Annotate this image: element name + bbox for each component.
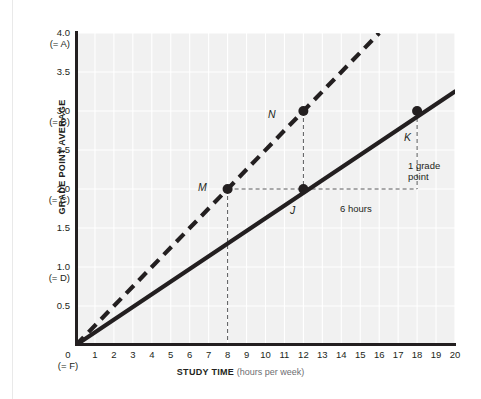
x-tick-6: 6 (180, 349, 200, 360)
x-tick-16: 16 (369, 349, 389, 360)
x-axis-title: STUDY TIME (hours per week) (0, 367, 481, 377)
x-tick-8: 8 (218, 349, 238, 360)
y-tick-value: 0.5 (57, 300, 70, 311)
y-tick-grade: (= C) (49, 194, 70, 205)
x-tick-3: 3 (123, 349, 143, 360)
y-tick-1-5: 1.5 (57, 222, 70, 233)
y-tick-2-5: 2.5 (57, 144, 70, 155)
y-tick-value: 1.0 (57, 261, 70, 272)
y-tick-3-0: 3.0 (= B) (49, 105, 70, 127)
x-axis-tick-labels: 1 2 3 4 5 6 7 8 9 10 11 12 13 14 15 16 1… (0, 349, 481, 365)
x-tick-15: 15 (350, 349, 370, 360)
point-M (223, 184, 233, 194)
point-K (412, 106, 422, 116)
y-tick-value: 4.0 (57, 27, 70, 38)
x-tick-18: 18 (407, 349, 427, 360)
x-tick-13: 13 (312, 349, 332, 360)
point-N (298, 106, 308, 116)
x-tick-2: 2 (104, 349, 124, 360)
x-tick-9: 9 (237, 349, 257, 360)
y-tick-2-0: 2.0 (= C) (49, 183, 70, 205)
point-label-K: K (404, 131, 411, 143)
x-tick-19: 19 (426, 349, 446, 360)
point-label-M: M (198, 181, 207, 193)
y-tick-value: 2.5 (57, 144, 70, 155)
x-tick-12: 12 (293, 349, 313, 360)
chart-figure: GRADE POINT AVERAGE 4.0 (= A) 3.5 3.0 (=… (0, 0, 481, 399)
x-tick-10: 10 (256, 349, 276, 360)
x-tick-5: 5 (161, 349, 181, 360)
x-tick-1: 1 (85, 349, 105, 360)
y-tick-value: 3.0 (57, 105, 70, 116)
y-tick-0-5: 0.5 (57, 300, 70, 311)
x-tick-11: 11 (274, 349, 294, 360)
y-tick-1-0: 1.0 (= D) (49, 261, 70, 283)
y-tick-grade: (= B) (49, 116, 70, 127)
y-tick-value: 3.5 (57, 66, 70, 77)
x-axis-title-main: STUDY TIME (177, 367, 234, 377)
y-tick-grade: (= D) (49, 272, 70, 283)
point-J (298, 184, 308, 194)
plot-area (0, 0, 481, 399)
y-tick-value: 2.0 (57, 183, 70, 194)
y-tick-value: 1.5 (57, 222, 70, 233)
run-annotation: 6 hours (340, 203, 372, 214)
x-tick-17: 17 (388, 349, 408, 360)
x-axis-title-note: (hours per week) (237, 367, 305, 377)
y-tick-3-5: 3.5 (57, 66, 70, 77)
x-tick-7: 7 (199, 349, 219, 360)
y-tick-4-0: 4.0 (= A) (50, 27, 70, 49)
x-tick-14: 14 (331, 349, 351, 360)
y-tick-grade: (= A) (50, 38, 70, 49)
point-label-N: N (268, 108, 276, 120)
point-label-J: J (290, 204, 295, 216)
x-tick-20: 20 (445, 349, 465, 360)
y-axis-tick-labels: 4.0 (= A) 3.5 3.0 (= B) 2.5 2.0 (= C) 1.… (36, 0, 70, 399)
rise-annotation: 1 gradepoint (408, 160, 440, 182)
x-tick-4: 4 (142, 349, 162, 360)
